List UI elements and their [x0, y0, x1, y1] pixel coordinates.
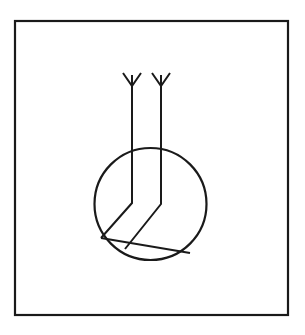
- outer-border-rect: [15, 21, 288, 315]
- left-strand-path: [101, 75, 132, 238]
- figure-canvas: [0, 0, 305, 335]
- circle-outline: [95, 148, 207, 260]
- right-strand-path: [125, 75, 161, 249]
- technical-line-drawing: [0, 0, 305, 335]
